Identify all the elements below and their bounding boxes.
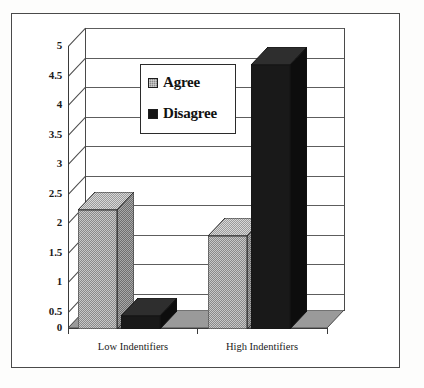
xtick-left [68, 328, 69, 334]
ytick-label-2: 2 [28, 216, 62, 228]
bar-low-disagree[interactable] [121, 298, 177, 329]
legend-row-agree: Agree [148, 74, 200, 91]
depth-connector-3_5 [68, 117, 86, 136]
ytick-label-5: 5 [28, 39, 62, 51]
legend-row-disagree: Disagree [148, 105, 217, 122]
xtick-right [327, 328, 328, 334]
depth-connector-4 [68, 87, 86, 106]
ytick-label-1_5: 1.5 [28, 246, 62, 258]
chart-figure: 5 4.5 4 3.5 3 2.5 2 1.5 1 0.5 0 Low Inde… [0, 0, 424, 388]
ytick-label-3: 3 [28, 157, 62, 169]
ytick-label-2_5: 2.5 [28, 187, 62, 199]
depth-connector-4_5 [68, 58, 86, 77]
ytick-label-0_5: 0.5 [28, 305, 62, 317]
legend-label-disagree: Disagree [163, 105, 217, 122]
legend-label-agree: Agree [163, 74, 200, 91]
plot-area: 5 4.5 4 3.5 3 2.5 2 1.5 1 0.5 0 Low Inde… [0, 0, 424, 388]
ytick-label-4_5: 4.5 [28, 69, 62, 81]
ytick-label-3_5: 3.5 [28, 128, 62, 140]
depth-connector-3 [68, 146, 86, 165]
bar-high-disagree[interactable] [251, 47, 307, 329]
depth-connector-5 [68, 28, 86, 47]
chart-legend: Agree Disagree [140, 64, 236, 134]
bar-high-disagree-shape [251, 47, 307, 329]
gridline-5 [85, 28, 344, 29]
wall-edge-right [344, 28, 345, 311]
category-label-low: Low Indentifiers [73, 341, 193, 352]
ytick-label-1: 1 [28, 275, 62, 287]
legend-swatch-agree-icon [148, 78, 158, 88]
xtick-mid [197, 328, 198, 334]
ytick-label-0: 0 [28, 321, 62, 333]
legend-swatch-disagree-icon [148, 109, 158, 119]
bar-low-disagree-shape [121, 298, 177, 329]
y-axis-line [68, 46, 69, 329]
category-label-high: High Indentifiers [202, 341, 322, 352]
ytick-label-4: 4 [28, 98, 62, 110]
